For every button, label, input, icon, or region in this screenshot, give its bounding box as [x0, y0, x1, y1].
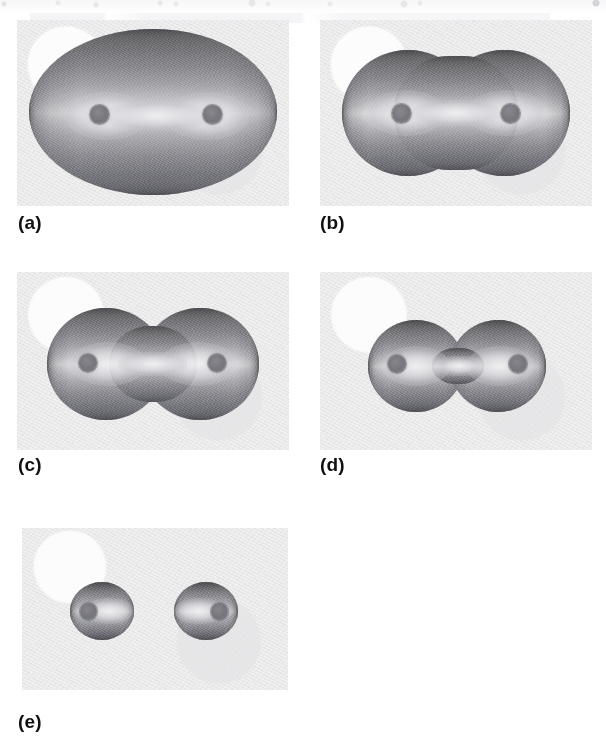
nucleus-d-left: [388, 355, 406, 373]
isosurface-a: [29, 29, 277, 195]
isosurface-e-spheroid-right: [174, 582, 238, 640]
panel-e: [22, 528, 288, 690]
nucleus-b-right: [501, 104, 520, 123]
nucleus-c-right: [208, 354, 226, 372]
figure-container: (a) (b): [0, 0, 606, 743]
isosurface-c-neck: [109, 326, 197, 402]
panel-d: [320, 272, 592, 450]
panel-c: [17, 272, 289, 450]
panel-e-paper: [22, 528, 288, 690]
isosurface-b-neck: [394, 56, 518, 170]
panel-b: [320, 20, 592, 206]
nucleus-d-right: [509, 355, 527, 373]
panel-e-label: (e): [18, 712, 42, 731]
panel-a: [17, 20, 289, 206]
panel-d-label: (d): [320, 455, 345, 474]
nucleus-a-right: [203, 105, 222, 124]
nucleus-e-left: [80, 603, 97, 620]
panel-c-label: (c): [18, 455, 42, 474]
scan-artifact-top: [0, 0, 606, 14]
panel-a-label: (a): [18, 213, 42, 232]
isosurface-d-neck: [432, 348, 484, 384]
nucleus-b-left: [392, 104, 411, 123]
nucleus-e-right: [211, 603, 228, 620]
panel-b-label: (b): [320, 213, 345, 232]
nucleus-a-left: [90, 105, 109, 124]
nucleus-c-left: [79, 354, 97, 372]
